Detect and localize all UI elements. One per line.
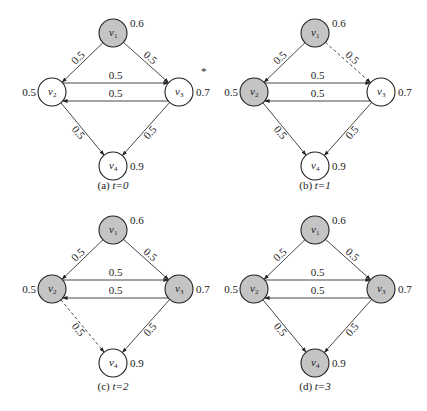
- edge-v1-v3-dashed: [325, 42, 370, 82]
- edge-weight-label: 0.5: [311, 266, 325, 278]
- node-threshold: 0.6: [332, 17, 346, 29]
- edge-weight-label: 0.5: [70, 320, 88, 339]
- node-threshold: 0.7: [398, 86, 412, 98]
- node-v2-active: v20.5: [224, 275, 268, 303]
- panel-c: 0.50.50.50.50.50.5v10.6v20.5v30.7v40.9(c…: [22, 214, 210, 393]
- diffusion-figure: 0.50.50.50.50.50.5v10.6v20.5v30.7v40.9(a…: [0, 0, 427, 411]
- edge-weight-label: 0.5: [271, 48, 290, 67]
- node-v2-inactive: v20.5: [22, 78, 66, 106]
- node-threshold: 0.5: [22, 283, 36, 295]
- node-v1-active: v10.6: [99, 214, 144, 244]
- node-v1-active: v10.6: [301, 214, 346, 244]
- node-v4-inactive: v40.9: [99, 349, 144, 377]
- node-threshold: 0.7: [196, 86, 210, 98]
- edge-weight-label: 0.5: [69, 245, 88, 264]
- node-threshold: 0.6: [332, 214, 346, 226]
- edge-weight-label: 0.5: [109, 266, 123, 278]
- panel-caption: (c) t=2: [98, 380, 129, 393]
- edge-weight-label: 0.5: [272, 320, 290, 339]
- edge-weight-label: 0.5: [69, 48, 88, 67]
- edge-weight-label: 0.5: [141, 123, 159, 142]
- edge-weight-label: 0.5: [311, 69, 325, 81]
- node-v2-active: v20.5: [224, 78, 268, 106]
- edge-v1-v2: [62, 240, 103, 280]
- edge-weight-label: 0.5: [141, 320, 159, 339]
- panel-b: 0.50.50.50.50.50.5v10.6v20.5v30.7v40.9(b…: [224, 17, 412, 192]
- node-threshold: 0.7: [398, 283, 412, 295]
- node-v3-active: v30.7: [165, 275, 210, 303]
- edge-weight-label: 0.5: [311, 87, 325, 99]
- stray-mark: *: [201, 65, 207, 77]
- node-threshold: 0.9: [130, 357, 144, 369]
- panel-caption: (b) t=1: [299, 179, 331, 192]
- diffusion-diagram-canvas: 0.50.50.50.50.50.5v10.6v20.5v30.7v40.9(a…: [0, 0, 427, 411]
- edge-v1-v2: [264, 240, 305, 280]
- node-v2-active: v20.5: [22, 275, 66, 303]
- node-v1-active: v10.6: [99, 17, 144, 47]
- node-threshold: 0.6: [130, 214, 144, 226]
- edge-v1-v2: [264, 43, 305, 83]
- node-v1-active: v10.6: [301, 17, 346, 47]
- panel-a: 0.50.50.50.50.50.5v10.6v20.5v30.7v40.9(a…: [22, 17, 210, 192]
- panel-caption: (d) t=3: [299, 380, 331, 393]
- node-threshold: 0.5: [224, 86, 238, 98]
- edge-v1-v3: [123, 239, 168, 279]
- edge-weight-label: 0.5: [343, 320, 361, 339]
- edge-v1-v3: [123, 42, 168, 82]
- edge-weight-label: 0.5: [109, 284, 123, 296]
- edge-weight-label: 0.5: [109, 87, 123, 99]
- node-threshold: 0.5: [22, 86, 36, 98]
- node-threshold: 0.7: [196, 283, 210, 295]
- node-threshold: 0.6: [130, 17, 144, 29]
- node-threshold: 0.9: [332, 160, 346, 172]
- node-v3-inactive: v30.7: [165, 78, 210, 106]
- edge-v1-v2: [62, 43, 103, 83]
- edge-v1-v3: [325, 239, 370, 279]
- node-threshold: 0.5: [224, 283, 238, 295]
- edge-weight-label: 0.5: [272, 123, 290, 142]
- node-threshold: 0.9: [332, 357, 346, 369]
- edge-weight-label: 0.5: [70, 123, 88, 142]
- panel-caption: (a) t=0: [98, 179, 129, 192]
- node-v4-inactive: v40.9: [301, 152, 346, 180]
- node-v4-active: v40.9: [301, 349, 346, 377]
- edge-weight-label: 0.5: [343, 123, 361, 142]
- edge-weight-label: 0.5: [271, 245, 290, 264]
- node-v3-active: v30.7: [367, 275, 412, 303]
- edge-weight-label: 0.5: [142, 245, 161, 263]
- node-v4-inactive: v40.9: [99, 152, 144, 180]
- node-threshold: 0.9: [130, 160, 144, 172]
- panel-d: 0.50.50.50.50.50.5v10.6v20.5v30.7v40.9(d…: [224, 214, 412, 393]
- edge-weight-label: 0.5: [344, 245, 363, 263]
- edge-weight-label: 0.5: [142, 48, 161, 66]
- edge-weight-label: 0.5: [311, 284, 325, 296]
- edge-weight-label: 0.5: [109, 69, 123, 81]
- edge-weight-label: 0.5: [344, 48, 363, 66]
- node-v3-inactive: v30.7: [367, 78, 412, 106]
